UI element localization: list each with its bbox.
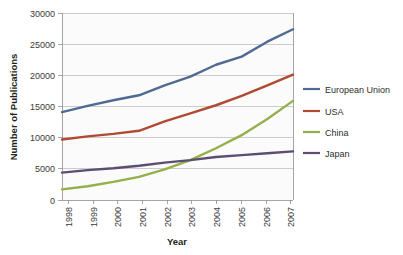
legend: European Union USA China Japan: [303, 85, 390, 159]
y-tick-label: 15000: [30, 102, 55, 112]
x-tick-label: 2000: [113, 207, 123, 227]
y-axis-title: Number of Publications: [8, 54, 19, 161]
y-tick-label: 25000: [30, 40, 55, 50]
legend-label-china: China: [325, 128, 349, 138]
y-tick-label: 20000: [30, 71, 55, 81]
legend-label-japan: Japan: [325, 149, 350, 159]
legend-label-usa: USA: [325, 107, 344, 117]
x-tick-label: 1998: [64, 207, 74, 227]
x-tick-label: 2002: [163, 207, 173, 227]
chart-figure: 30000 25000 20000 15000 10000 5000 0 199…: [0, 0, 403, 255]
x-tick-label: 2006: [262, 207, 272, 227]
y-tick-labels: 30000 25000 20000 15000 10000 5000 0: [30, 9, 55, 206]
y-tick-label: 0: [50, 196, 55, 206]
x-tick-label: 2007: [286, 207, 296, 227]
y-tick-label: 30000: [30, 9, 55, 19]
x-tick-marks: [68, 200, 290, 204]
legend-label-european-union: European Union: [325, 85, 390, 95]
x-tick-label: 2001: [138, 207, 148, 227]
line-chart: 30000 25000 20000 15000 10000 5000 0 199…: [0, 0, 403, 255]
x-tick-label: 2004: [212, 207, 222, 227]
y-tick-label: 10000: [30, 133, 55, 143]
y-tick-label: 5000: [35, 164, 55, 174]
x-axis-title: Year: [167, 236, 187, 247]
x-tick-label: 2003: [187, 207, 197, 227]
x-tick-label: 1999: [89, 207, 99, 227]
x-tick-labels: 1998 1999 2000 2001 2002 2003 2004 2005 …: [64, 207, 296, 227]
x-tick-label: 2005: [237, 207, 247, 227]
